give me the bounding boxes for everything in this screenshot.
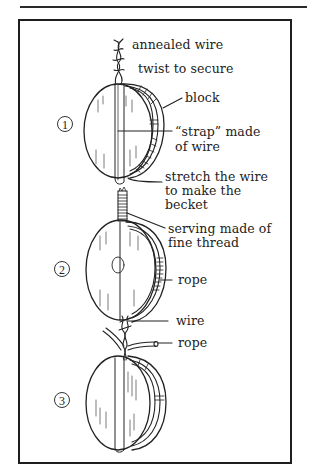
wire-strap <box>115 358 124 452</box>
block-face <box>86 220 156 320</box>
label-twist-to-secure: twist to secure <box>138 62 233 75</box>
block-face <box>86 356 150 450</box>
label-wire-3: wire <box>176 314 204 327</box>
wire-strap <box>115 84 124 184</box>
leader-stretch <box>128 178 162 182</box>
label-block: block <box>185 91 220 104</box>
step-number-1: 1 <box>57 116 73 132</box>
step-2-drawing <box>86 187 166 322</box>
label-strap-line1: “strap” made <box>175 125 261 138</box>
pin-hole <box>112 257 124 273</box>
label-serving-line2: fine thread <box>168 236 239 249</box>
leader-block <box>163 98 182 108</box>
label-serving-line1: serving made of <box>168 222 271 235</box>
leader-serving <box>127 213 165 228</box>
step-number-2: 2 <box>54 261 70 277</box>
label-stretch-line3: becket <box>165 198 208 211</box>
label-rope-2: rope <box>178 273 207 286</box>
rope <box>103 328 158 350</box>
label-strap-line2: of wire <box>175 140 220 153</box>
twisted-wire <box>113 39 124 84</box>
label-stretch-line1: stretch the wire <box>165 170 268 183</box>
step-3-drawing <box>86 316 166 452</box>
label-stretch-line2: to make the <box>165 184 241 197</box>
step-number-3: 3 <box>54 392 70 408</box>
serving-thread <box>118 191 127 221</box>
twisted-wire <box>119 316 131 360</box>
label-annealed-wire: annealed wire <box>132 38 223 51</box>
label-rope-3: rope <box>178 336 207 349</box>
